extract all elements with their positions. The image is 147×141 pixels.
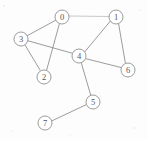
graph-edge-1-4 [85, 21, 111, 52]
graph-edge-0-3 [27, 20, 55, 35]
graph-edge-4-5 [81, 63, 90, 95]
scan-speck [3, 5, 4, 6]
graph-node-7[interactable]: 7 [38, 116, 52, 130]
graph-node-4[interactable]: 4 [72, 49, 86, 63]
graph-edge-3-2 [25, 45, 40, 70]
node-label-0: 0 [60, 12, 64, 22]
graph-node-5[interactable]: 5 [86, 95, 100, 109]
graph-edge-3-4 [28, 41, 72, 53]
node-label-5: 5 [91, 97, 95, 107]
graph-node-3[interactable]: 3 [14, 32, 28, 46]
graph-edge-1-6 [119, 24, 126, 63]
node-label-2: 2 [42, 72, 46, 82]
node-label-7: 7 [43, 118, 47, 128]
node-label-3: 3 [19, 34, 23, 44]
node-label-1: 1 [114, 12, 118, 22]
scan-speck [101, 96, 102, 97]
scan-speck [11, 130, 12, 131]
graph-node-2[interactable]: 2 [37, 70, 51, 84]
graph-edge-0-1 [69, 16, 109, 17]
node-layer: 01234567 [14, 10, 135, 130]
graph-node-0[interactable]: 0 [55, 10, 69, 24]
scan-speck [139, 9, 140, 10]
scan-speck [70, 135, 71, 136]
scan-artifact-layer [3, 5, 140, 135]
graph-canvas: 01234567 [0, 0, 147, 141]
graph-edge-4-6 [86, 59, 121, 68]
edge-layer [25, 16, 126, 121]
graph-edge-5-7 [52, 105, 87, 121]
graph-figure: 01234567 [0, 0, 147, 141]
node-label-6: 6 [126, 65, 130, 75]
scan-speck [133, 127, 134, 128]
graph-node-1[interactable]: 1 [109, 10, 123, 24]
graph-node-6[interactable]: 6 [121, 63, 135, 77]
